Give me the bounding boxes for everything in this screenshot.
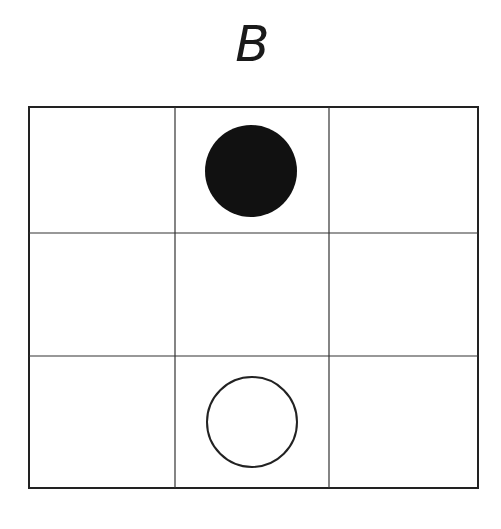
grid-cell-r1-c0 (29, 233, 175, 356)
grid-cell-r1-c2 (329, 233, 478, 356)
grid-cell-r0-c0 (29, 107, 175, 233)
grid-cell-r0-c2 (329, 107, 478, 233)
grid-cell-r1-c1 (175, 233, 329, 356)
grid-cell-r2-c1 (175, 356, 329, 488)
grid-board (0, 0, 501, 529)
grid-cell-r2-c0 (29, 356, 175, 488)
filled-circle-icon (205, 125, 297, 217)
grid-cell-r2-c2 (329, 356, 478, 488)
